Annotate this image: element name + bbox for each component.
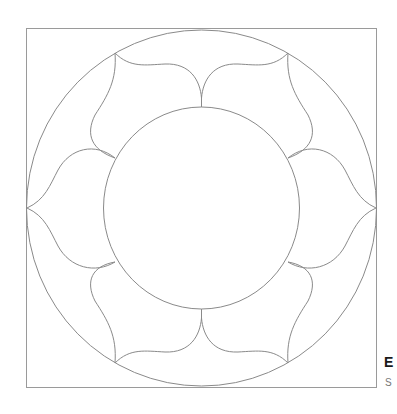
petal-bottom-right-side — [288, 262, 313, 363]
petal-bottom-right-lower — [202, 318, 289, 363]
petal-bottom-left-lower — [115, 318, 202, 363]
inner-circle — [104, 107, 300, 309]
outer-circle — [27, 30, 377, 386]
petal-right-upper — [288, 149, 376, 208]
caption-title: E — [384, 354, 393, 370]
petal-left-lower — [27, 208, 115, 268]
petal-right-lower — [288, 208, 376, 268]
petal-top-right-side — [288, 53, 313, 158]
petal-top-left-upper — [115, 53, 202, 98]
petal-bottom-left-side — [91, 262, 116, 363]
square-frame — [27, 29, 377, 388]
lotus-diagram — [0, 0, 397, 414]
petal-top-right-upper — [202, 53, 289, 98]
caption-subtitle: S — [385, 377, 393, 388]
petal-left-upper — [27, 149, 115, 208]
petal-top-left-side — [91, 53, 116, 158]
